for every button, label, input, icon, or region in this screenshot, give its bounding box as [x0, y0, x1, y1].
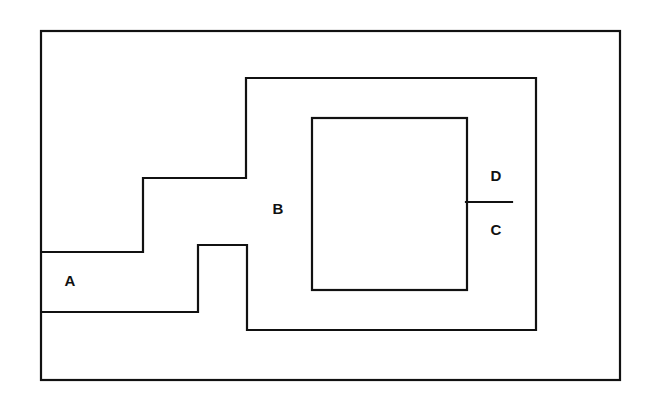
label-c: C	[491, 221, 502, 238]
region-b-stepped-boundary	[42, 78, 536, 330]
region-c-inner-rectangle	[312, 118, 467, 290]
label-d: D	[491, 167, 502, 184]
diagram-canvas: A B D C	[0, 0, 657, 405]
label-b: B	[273, 200, 284, 217]
region-diagram: A B D C	[0, 0, 657, 405]
label-a: A	[65, 272, 76, 289]
outer-rectangle	[41, 31, 620, 380]
